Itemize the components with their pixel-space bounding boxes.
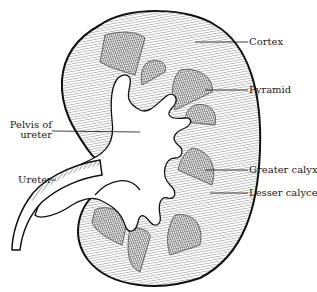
label-cortex: Cortex: [249, 36, 283, 47]
label-ureter: Ureter: [18, 174, 52, 185]
kidney-diagram: Cortex Pyramid Pelvis of ureter Ureter G…: [0, 0, 317, 292]
label-pyramid: Pyramid: [249, 84, 291, 95]
label-lesser-calyces: Lesser calyces: [249, 187, 317, 198]
label-pelvis-line2: ureter: [8, 129, 52, 140]
label-greater-calyx: Greater calyx: [249, 164, 317, 175]
